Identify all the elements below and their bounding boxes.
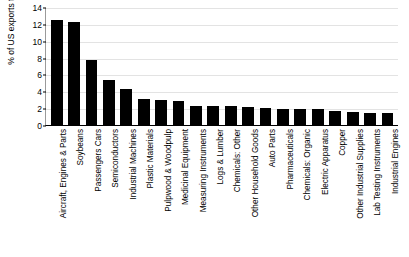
bar-slot	[274, 8, 291, 125]
x-label-slot: Chemicals: Other	[222, 127, 239, 255]
bar[interactable]	[382, 113, 394, 125]
x-label-slot: Pulpwood & Woodpulp	[152, 127, 169, 255]
bar[interactable]	[260, 108, 272, 125]
bar-slot	[379, 8, 396, 125]
bar[interactable]	[138, 99, 150, 125]
x-label-slot: Semiconductors	[99, 127, 116, 255]
bar-slot	[170, 8, 187, 125]
y-tick-label-12: 12	[33, 20, 42, 30]
bar[interactable]	[173, 101, 185, 125]
bar-slot	[83, 8, 100, 125]
x-label-slot: Medicinal Equipment	[169, 127, 186, 255]
y-tick-label-2: 2	[37, 104, 42, 114]
bar[interactable]	[329, 111, 341, 125]
bar[interactable]	[294, 109, 306, 125]
bar-slot	[257, 8, 274, 125]
x-label-slot: Pharmaceuticals	[274, 127, 291, 255]
x-axis-labels: Aircraft, Engines & PartsSoybeansPasseng…	[45, 127, 398, 255]
bar-slot	[205, 8, 222, 125]
x-label-slot: Industrial Engines	[379, 127, 396, 255]
x-label-slot: Auto Parts	[256, 127, 273, 255]
bar-slot	[222, 8, 239, 125]
x-axis-label: Industrial Engines	[391, 129, 400, 194]
bar[interactable]	[207, 106, 219, 125]
x-label-slot: Plastic Materials	[134, 127, 151, 255]
bar[interactable]	[68, 22, 80, 125]
bar-slot	[152, 8, 169, 125]
x-label-slot: Passengers Cars	[82, 127, 99, 255]
bar-slot	[65, 8, 82, 125]
bar-chart: % of US exports to CN 02468101214 Aircra…	[0, 0, 409, 257]
bar-slot	[239, 8, 256, 125]
bar[interactable]	[51, 20, 63, 125]
x-label-slot: Other Industrial Supplies	[344, 127, 361, 255]
x-label-slot: Chemicals: Organic	[291, 127, 308, 255]
y-tick-label-8: 8	[37, 54, 42, 64]
y-axis-title: % of US exports to CN	[6, 0, 16, 82]
y-tick-label-4: 4	[37, 87, 42, 97]
bar-slot	[48, 8, 65, 125]
bar[interactable]	[86, 60, 98, 125]
bar-slot	[135, 8, 152, 125]
bar-slot	[118, 8, 135, 125]
bar[interactable]	[190, 106, 202, 125]
bar-slot	[292, 8, 309, 125]
bar[interactable]	[225, 106, 237, 125]
bar[interactable]	[347, 112, 359, 125]
bar[interactable]	[364, 113, 376, 125]
x-label-slot: Logs & Lumber	[204, 127, 221, 255]
x-label-slot: Other Household Goods	[239, 127, 256, 255]
y-tick-label-0: 0	[37, 121, 42, 131]
bar-slot	[361, 8, 378, 125]
plot-area: 02468101214	[45, 8, 398, 126]
bar-slot	[187, 8, 204, 125]
x-label-slot: Soybeans	[64, 127, 81, 255]
bar-slot	[344, 8, 361, 125]
bar[interactable]	[312, 109, 324, 125]
bar[interactable]	[242, 107, 254, 125]
x-label-slot: Lab Testing Instruments	[361, 127, 378, 255]
bar-slot	[327, 8, 344, 125]
bar[interactable]	[277, 109, 289, 125]
bar-slot	[100, 8, 117, 125]
y-tick-label-10: 10	[33, 37, 42, 47]
y-tick-label-14: 14	[33, 3, 42, 13]
bar[interactable]	[120, 89, 132, 125]
bar[interactable]	[155, 100, 167, 125]
x-label-slot: Aircraft, Engines & Parts	[47, 127, 64, 255]
x-label-slot: Copper	[326, 127, 343, 255]
x-label-slot: Electric Apparatus	[309, 127, 326, 255]
bar[interactable]	[103, 80, 115, 125]
bar-series	[46, 8, 398, 125]
y-tick-label-6: 6	[37, 70, 42, 80]
x-label-slot: Industrial Machines	[117, 127, 134, 255]
bar-slot	[309, 8, 326, 125]
x-label-slot: Measuring Instruments	[187, 127, 204, 255]
